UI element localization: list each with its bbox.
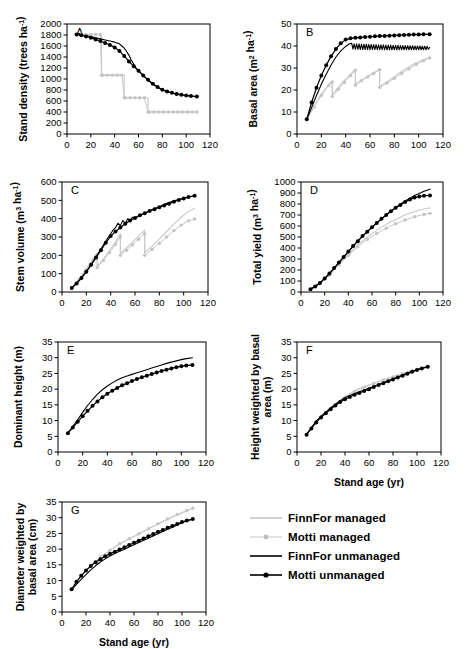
svg-text:20: 20 xyxy=(86,139,97,150)
panel-G-plot: 05101520253035020406080100120GDiameter w… xyxy=(0,488,235,649)
svg-text:120: 120 xyxy=(433,457,449,468)
panel-D: 0100200300400500600700800900100002040608… xyxy=(235,168,470,328)
svg-text:1000: 1000 xyxy=(274,176,295,187)
svg-text:40: 40 xyxy=(102,457,113,468)
svg-text:40: 40 xyxy=(340,139,351,150)
svg-text:100: 100 xyxy=(174,617,190,628)
svg-text:400: 400 xyxy=(46,106,62,117)
svg-text:600: 600 xyxy=(46,95,62,106)
svg-text:40: 40 xyxy=(109,139,120,150)
svg-text:100: 100 xyxy=(280,275,296,286)
svg-text:B: B xyxy=(306,26,313,38)
svg-text:basal area (cm): basal area (cm) xyxy=(26,519,38,595)
svg-text:40: 40 xyxy=(105,617,116,628)
svg-text:200: 200 xyxy=(41,250,57,261)
svg-text:100: 100 xyxy=(411,139,427,150)
svg-text:0: 0 xyxy=(51,286,56,297)
svg-text:0: 0 xyxy=(51,606,56,617)
svg-text:500: 500 xyxy=(41,195,57,206)
svg-text:700: 700 xyxy=(280,209,296,220)
svg-text:0: 0 xyxy=(294,139,299,150)
svg-text:100: 100 xyxy=(41,268,57,279)
svg-text:900: 900 xyxy=(280,187,296,198)
svg-text:0: 0 xyxy=(56,128,61,139)
svg-text:400: 400 xyxy=(280,242,296,253)
svg-text:60: 60 xyxy=(133,139,144,150)
svg-text:80: 80 xyxy=(390,297,401,308)
figure-multipanel: 0200400600800100012001400160018002000020… xyxy=(0,0,470,649)
svg-text:G: G xyxy=(71,504,80,516)
legend-label-motti-unmanaged: Motti unmanaged xyxy=(288,569,385,581)
svg-text:Dominant height (m): Dominant height (m) xyxy=(12,346,24,448)
svg-text:100: 100 xyxy=(178,139,194,150)
legend-item: FinnFor unmanaged xyxy=(248,546,463,565)
svg-text:0: 0 xyxy=(59,617,64,628)
svg-text:0: 0 xyxy=(294,457,299,468)
legend: FinnFor managed Motti managed FinnFor un… xyxy=(248,508,463,584)
svg-text:120: 120 xyxy=(435,139,451,150)
svg-text:120: 120 xyxy=(202,139,218,150)
svg-text:area (m): area (m) xyxy=(261,377,273,418)
svg-text:F: F xyxy=(306,344,313,356)
panel-A-plot: 0200400600800100012001400160018002000020… xyxy=(0,8,235,168)
svg-text:80: 80 xyxy=(389,139,400,150)
svg-text:600: 600 xyxy=(280,220,296,231)
svg-text:C: C xyxy=(71,184,79,196)
legend-label-finnfor-unmanaged: FinnFor unmanaged xyxy=(288,550,400,562)
svg-text:30: 30 xyxy=(46,512,57,523)
svg-text:50: 50 xyxy=(281,18,292,29)
svg-text:80: 80 xyxy=(151,457,162,468)
svg-text:0: 0 xyxy=(286,446,291,457)
svg-text:1800: 1800 xyxy=(40,29,61,40)
panel-A: 0200400600800100012001400160018002000020… xyxy=(0,8,235,168)
panel-B: 01020304050020406080100120BBasal area (m… xyxy=(235,8,470,168)
svg-text:35: 35 xyxy=(46,496,57,507)
svg-text:20: 20 xyxy=(316,457,327,468)
svg-text:Stem volume (m3 ha-1): Stem volume (m3 ha-1) xyxy=(8,182,26,292)
svg-text:10: 10 xyxy=(281,106,292,117)
svg-text:20: 20 xyxy=(81,617,92,628)
svg-text:60: 60 xyxy=(365,139,376,150)
panel-F-plot: 05101520253035020406080100120FHeight wei… xyxy=(235,328,470,513)
svg-text:0: 0 xyxy=(55,457,60,468)
svg-text:80: 80 xyxy=(153,617,164,628)
panel-G: 05101520253035020406080100120GDiameter w… xyxy=(0,488,235,649)
svg-text:Total yield (m3 ha-1): Total yield (m3 ha-1) xyxy=(245,189,263,285)
svg-text:100: 100 xyxy=(411,297,427,308)
svg-text:Stand density (trees ha-1): Stand density (trees ha-1) xyxy=(14,16,29,141)
svg-text:800: 800 xyxy=(46,84,62,95)
legend-key-finnfor-unmanaged xyxy=(248,549,284,563)
svg-text:5: 5 xyxy=(286,431,291,442)
svg-text:120: 120 xyxy=(200,297,216,308)
svg-text:60: 60 xyxy=(127,457,138,468)
svg-text:60: 60 xyxy=(130,297,141,308)
legend-key-motti-managed xyxy=(248,530,284,544)
svg-text:40: 40 xyxy=(281,40,292,51)
panel-C-plot: 0100200300400500600020406080100120CStem … xyxy=(0,168,235,328)
svg-text:10: 10 xyxy=(281,415,292,426)
svg-text:120: 120 xyxy=(435,297,451,308)
svg-text:500: 500 xyxy=(280,231,296,242)
svg-text:5: 5 xyxy=(47,431,52,442)
svg-text:40: 40 xyxy=(340,457,351,468)
svg-text:20: 20 xyxy=(281,84,292,95)
panel-B-plot: 01020304050020406080100120BBasal area (m… xyxy=(235,8,470,168)
svg-text:30: 30 xyxy=(281,62,292,73)
svg-text:120: 120 xyxy=(198,617,214,628)
svg-text:0: 0 xyxy=(47,446,52,457)
svg-text:600: 600 xyxy=(41,176,57,187)
panel-C: 0100200300400500600020406080100120CStem … xyxy=(0,168,235,328)
svg-text:20: 20 xyxy=(281,383,292,394)
svg-text:5: 5 xyxy=(51,591,56,602)
svg-text:25: 25 xyxy=(46,528,57,539)
svg-text:300: 300 xyxy=(280,253,296,264)
svg-text:0: 0 xyxy=(298,297,303,308)
legend-key-motti-unmanaged xyxy=(248,568,284,582)
svg-text:40: 40 xyxy=(105,297,116,308)
svg-text:100: 100 xyxy=(409,457,425,468)
svg-text:0: 0 xyxy=(64,139,69,150)
legend-item: Motti unmanaged xyxy=(248,565,463,584)
svg-text:60: 60 xyxy=(364,457,375,468)
svg-text:0: 0 xyxy=(290,286,295,297)
svg-text:100: 100 xyxy=(176,297,192,308)
